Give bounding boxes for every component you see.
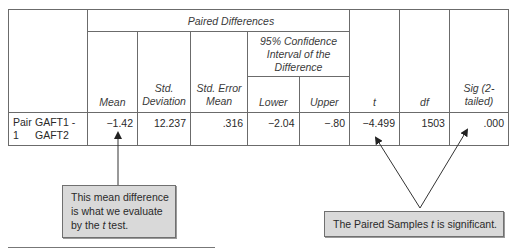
t-arrow: [376, 138, 420, 208]
bottom-rule: [8, 247, 215, 248]
callout-text: The Paired Samples: [333, 218, 431, 230]
significance-callout: The Paired Samples t is significant.: [324, 211, 504, 237]
callout-text-end: is significant.: [434, 218, 497, 230]
mean-difference-callout: This mean difference is what we evaluate…: [62, 185, 176, 238]
sig-arrow: [420, 130, 467, 208]
callout-text-end: test.: [105, 219, 128, 231]
